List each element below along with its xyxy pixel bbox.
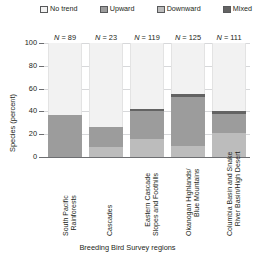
x-label-line-1: South Pacific bbox=[62, 195, 70, 236]
bar-segment-no-trend bbox=[171, 43, 205, 94]
x-label-columbia-basin-snake-river-basin-high-desert: Columbia Basin and Snake River Basin/Hig… bbox=[226, 152, 241, 236]
legend-item-upward: Upward bbox=[100, 5, 135, 13]
x-axis-line bbox=[44, 157, 250, 158]
x-label-line-1: Cascades bbox=[106, 205, 114, 236]
x-label-line-2: Slopes and Foothills bbox=[152, 173, 160, 236]
y-tick-label-100: 100 bbox=[25, 39, 37, 47]
y-axis: 100 80 60 40 20 0 Species (percent) bbox=[0, 0, 44, 261]
y-axis-title: Species (percent) bbox=[8, 94, 17, 152]
bar-segment-downward bbox=[171, 146, 205, 157]
x-label-line-2: River Basin/High Desert bbox=[234, 152, 242, 236]
bar-okanogan-highlands-blue-mountains[interactable] bbox=[171, 43, 205, 157]
bar-columbia-basin-snake-river-basin-high-desert[interactable] bbox=[212, 43, 246, 157]
legend-label-downward: Downward bbox=[167, 5, 201, 13]
bar-eastern-cascade-slopes-and-foothills[interactable] bbox=[130, 43, 164, 157]
bar-south-pacific-rainforests[interactable] bbox=[48, 43, 82, 157]
x-label-line-2: Rainforests bbox=[70, 195, 78, 236]
x-label-south-pacific-rainforests: South Pacific Rainforests bbox=[62, 195, 77, 236]
legend-label-mixed: Mixed bbox=[233, 5, 252, 13]
n-label-okanogan-highlands: N = 125 bbox=[171, 33, 205, 42]
bar-segment-upward bbox=[212, 114, 246, 133]
legend-item-downward: Downward bbox=[157, 5, 201, 13]
legend-label-upward: Upward bbox=[110, 5, 135, 13]
bar-segment-no-trend bbox=[130, 43, 164, 109]
n-label-cascades: N = 23 bbox=[89, 33, 123, 42]
y-tick-label-0: 0 bbox=[33, 153, 37, 161]
x-label-line-1: Eastern Cascade bbox=[144, 173, 152, 236]
bar-segment-upward bbox=[171, 97, 205, 146]
bar-segment-downward bbox=[89, 147, 123, 157]
x-label-line-1: Okanogan Highlands/ bbox=[185, 169, 193, 236]
bar-segment-no-trend bbox=[48, 43, 82, 115]
bars-container bbox=[44, 43, 250, 157]
chart-legend: No trend Upward Downward Mixed bbox=[40, 2, 252, 16]
legend-item-no-trend: No trend bbox=[40, 5, 78, 13]
x-label-line-1: Columbia Basin and Snake bbox=[226, 152, 234, 236]
y-tick-label-60: 60 bbox=[29, 85, 37, 93]
legend-swatch-downward bbox=[157, 6, 165, 13]
bar-segment-upward bbox=[48, 115, 82, 157]
legend-swatch-mixed bbox=[223, 6, 231, 13]
bar-segment-upward bbox=[89, 127, 123, 146]
n-label-south-pacific-rainforests: N = 89 bbox=[48, 33, 82, 42]
n-label-eastern-cascade: N = 119 bbox=[130, 33, 164, 42]
bar-cascades[interactable] bbox=[89, 43, 123, 157]
x-label-okanogan-highlands-blue-mountains: Okanogan Highlands/ Blue Mountains bbox=[185, 169, 200, 236]
legend-label-no-trend: No trend bbox=[50, 5, 78, 13]
n-label-columbia-basin: N = 111 bbox=[212, 33, 246, 42]
x-axis-category-labels: South Pacific Rainforests Cascades Easte… bbox=[44, 160, 250, 238]
x-label-eastern-cascade-slopes-and-foothills: Eastern Cascade Slopes and Foothills bbox=[144, 173, 159, 236]
x-axis-title: Breeding Bird Survey regions bbox=[0, 243, 255, 252]
y-tick-label-40: 40 bbox=[29, 107, 37, 115]
bar-segment-no-trend bbox=[212, 43, 246, 111]
legend-item-mixed: Mixed bbox=[223, 5, 252, 13]
y-tick-label-80: 80 bbox=[29, 62, 37, 70]
bar-segment-no-trend bbox=[89, 43, 123, 127]
x-label-cascades: Cascades bbox=[106, 205, 114, 236]
y-tick-label-20: 20 bbox=[29, 130, 37, 138]
bar-segment-downward bbox=[130, 139, 164, 157]
legend-swatch-upward bbox=[100, 6, 108, 13]
x-label-line-2: Blue Mountains bbox=[193, 169, 201, 236]
bar-segment-upward bbox=[130, 111, 164, 138]
chart-figure: No trend Upward Downward Mixed 100 80 60… bbox=[0, 0, 255, 261]
